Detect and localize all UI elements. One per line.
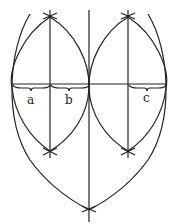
brace-a: [13, 85, 50, 91]
brace-b: [51, 85, 89, 91]
label-a: a: [27, 93, 34, 107]
geometric-construction-diagram: a b c: [0, 0, 178, 224]
label-c: c: [143, 91, 150, 105]
label-b: b: [65, 93, 73, 107]
